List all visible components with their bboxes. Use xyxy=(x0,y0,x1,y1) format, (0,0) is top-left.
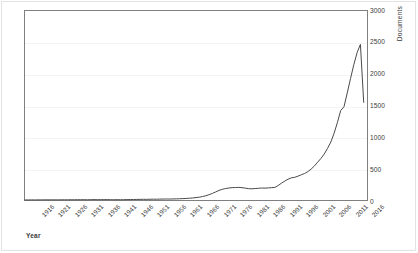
x-axis-tick-label: 2011 xyxy=(354,203,369,218)
x-axis-tick-label: 1916 xyxy=(40,203,55,218)
x-axis-tick-label: 1966 xyxy=(205,203,220,218)
plot-wrapper xyxy=(24,10,368,201)
x-axis-tick-label: 2016 xyxy=(371,203,386,218)
x-axis-tick-label: 1991 xyxy=(288,203,303,218)
x-axis-tick-label: 1971 xyxy=(222,203,237,218)
x-axis-tick-label: 1931 xyxy=(90,203,105,218)
x-axis-tick-label: 2006 xyxy=(338,203,353,218)
x-axis-tick-labels: 1916192119261931193619411946195119561961… xyxy=(0,201,418,233)
x-axis-tick-label: 2001 xyxy=(321,203,336,218)
x-axis-tick-label: 1936 xyxy=(106,203,121,218)
y-axis-tick-label: 3000 xyxy=(370,7,396,14)
y-axis-tick-labels: 050010001500200025003000 xyxy=(370,0,396,211)
y-axis-tick-label: 1000 xyxy=(370,134,396,141)
documents-line xyxy=(25,44,364,200)
y-axis-tick-label: 2500 xyxy=(370,38,396,45)
y-axis-tick-label: 2000 xyxy=(370,70,396,77)
plot-area xyxy=(24,10,368,201)
x-axis-tick-label: 1921 xyxy=(56,203,71,218)
chart-figure: 050010001500200025003000 Documents 19161… xyxy=(0,0,418,253)
x-axis-tick-label: 1996 xyxy=(305,203,320,218)
x-axis-tick-label: 1951 xyxy=(156,203,171,218)
line-series xyxy=(25,11,367,200)
y-axis-title: Documents xyxy=(396,6,403,41)
x-axis-tick-label: 1961 xyxy=(189,203,204,218)
x-axis-tick-label: 1981 xyxy=(255,203,270,218)
x-axis-tick-label: 1956 xyxy=(172,203,187,218)
x-axis-tick-label: 1946 xyxy=(139,203,154,218)
x-axis-tick-label: 1986 xyxy=(271,203,286,218)
y-axis-tick-label: 1500 xyxy=(370,102,396,109)
x-axis-title: Year xyxy=(26,232,41,239)
x-axis-tick-label: 1976 xyxy=(238,203,253,218)
x-axis-tick-label: 1941 xyxy=(123,203,138,218)
y-axis-tick-label: 500 xyxy=(370,166,396,173)
x-axis-tick-label: 1926 xyxy=(73,203,88,218)
